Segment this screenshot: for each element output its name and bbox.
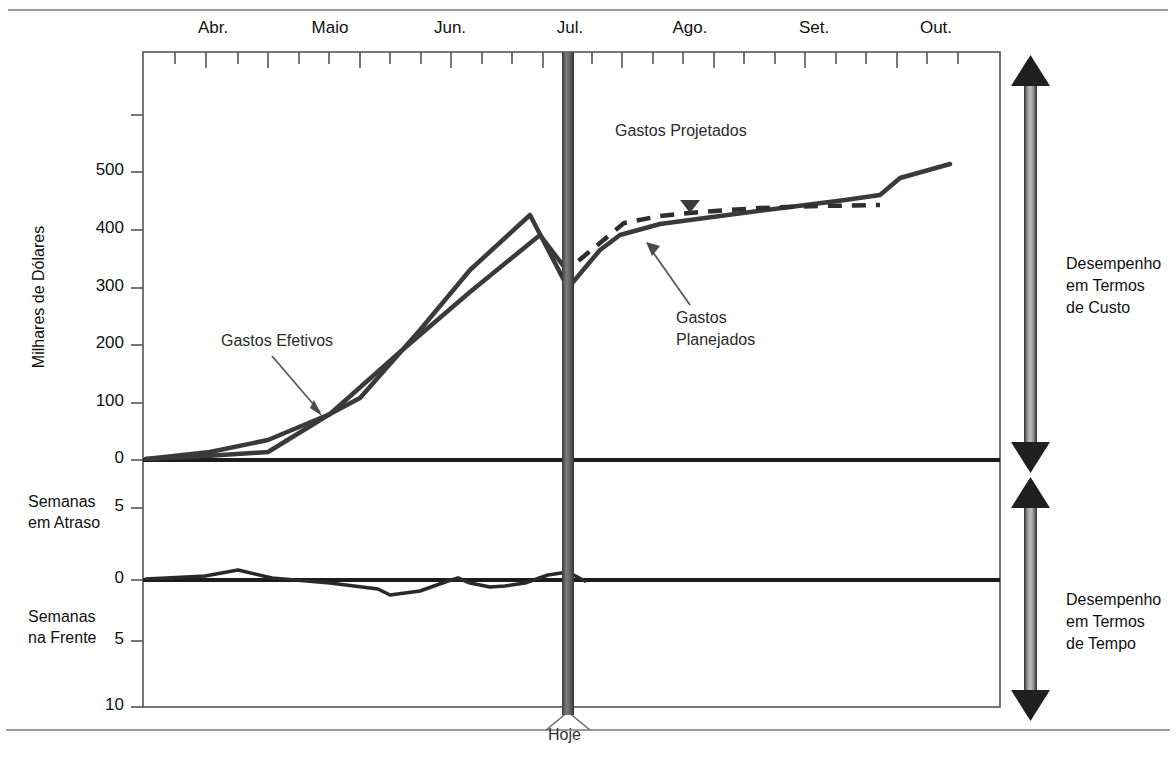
y-tick-label-0: 0 [80, 448, 124, 468]
schedule-y-ticks [131, 508, 143, 707]
side-arrow-custo-line1: Desempenho [1066, 253, 1161, 275]
schedule-label-ahead-line1: Semanas [28, 607, 96, 628]
cost-y-ticks [131, 115, 143, 460]
today-vertical-line [562, 52, 574, 715]
side-arrow-custo-line3: de Custo [1066, 297, 1130, 319]
leader-gastos-planejados [646, 242, 690, 305]
y-tick-label-500: 500 [80, 160, 124, 180]
series-gastos-efetivos [146, 235, 568, 459]
arrow-desempenho-tempo [1011, 477, 1050, 721]
month-label-maio: Maio [290, 18, 370, 38]
series-gastos-planejados [146, 164, 950, 459]
annotation-gastos-planejados-line2: Planejados [676, 330, 755, 350]
today-label: Hoje [548, 726, 581, 744]
side-arrow-tempo-line3: de Tempo [1066, 633, 1136, 655]
schedule-label-behind-line2: em Atraso [28, 513, 100, 534]
month-label-jul: Jul. [530, 18, 610, 38]
month-label-set: Set. [774, 18, 854, 38]
month-label-out: Out. [896, 18, 976, 38]
series-desvio-cronograma [146, 570, 585, 595]
month-label-jun: Jun. [410, 18, 490, 38]
annotation-gastos-efetivos: Gastos Efetivos [221, 331, 333, 351]
leader-gastos-efetivos [272, 356, 322, 416]
y-tick-label-300: 300 [80, 276, 124, 296]
side-arrow-tempo-line1: Desempenho [1066, 589, 1161, 611]
schedule-tick-label-0: 0 [80, 568, 124, 588]
side-arrow-custo-line2: em Termos [1066, 275, 1145, 297]
y-tick-label-100: 100 [80, 391, 124, 411]
schedule-label-behind-line1: Semanas [28, 492, 96, 513]
side-arrow-tempo-line2: em Termos [1066, 611, 1145, 633]
arrow-desempenho-custo [1011, 55, 1050, 473]
y-tick-label-400: 400 [80, 218, 124, 238]
schedule-tick-label-ahead-10: 10 [80, 695, 124, 715]
chart-canvas [0, 0, 1176, 760]
annotation-gastos-projetados: Gastos Projetados [615, 121, 747, 141]
annotation-gastos-planejados-line1: Gastos [676, 308, 727, 328]
figure-root: Milhares de Dólares 500 400 300 200 100 … [0, 0, 1176, 760]
month-label-ago: Ago. [650, 18, 730, 38]
schedule-label-ahead-line2: na Frente [28, 628, 96, 649]
month-label-abr: Abr. [173, 18, 253, 38]
y-tick-label-200: 200 [80, 333, 124, 353]
y-axis-title: Milhares de Dólares [30, 202, 48, 392]
